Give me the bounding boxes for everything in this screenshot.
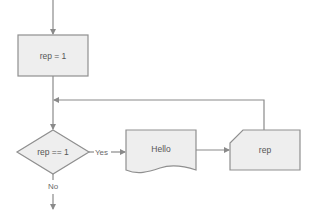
init-label: rep = 1 [40, 51, 67, 61]
input-card-node[interactable]: rep [230, 130, 300, 170]
input-label: rep [259, 145, 272, 155]
output-document-node[interactable]: Hello [126, 130, 196, 173]
init-process-node[interactable]: rep = 1 [18, 35, 88, 76]
yes-label: Yes [95, 148, 108, 157]
decision-label: rep == 1 [37, 147, 69, 157]
flowchart-canvas: rep = 1 rep == 1 Yes Hello rep No [0, 0, 315, 220]
decision-node[interactable]: rep == 1 [17, 130, 89, 174]
output-label: Hello [151, 144, 171, 154]
no-label: No [48, 182, 59, 191]
loop-back-arrow [54, 100, 264, 130]
